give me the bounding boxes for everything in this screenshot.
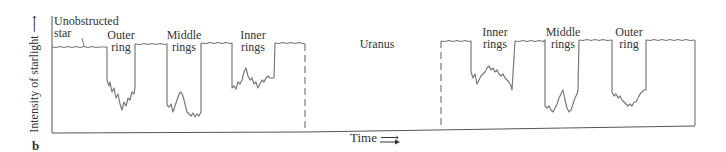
label-inner-rings-left: Inner rings <box>236 29 270 53</box>
label-inner-rings-left-text: Inner rings <box>240 28 265 54</box>
label-middle-rings-left: Middle rings <box>164 29 204 53</box>
label-middle-rings-right-text: Middle rings <box>546 25 581 51</box>
label-inner-rings-right: Inner rings <box>478 26 512 50</box>
label-middle-rings-left-text: Middle rings <box>167 28 202 54</box>
label-uranus-text: Uranus <box>360 37 395 51</box>
annotation-pointer <box>82 38 84 46</box>
label-outer-ring-left: Outer ring <box>104 29 138 53</box>
x-axis-label: Time ⟶ <box>350 130 399 146</box>
x-axis-label-text: Time ⟶ <box>350 130 399 145</box>
label-outer-ring-right: Outer ring <box>612 26 646 50</box>
label-inner-rings-right-text: Inner rings <box>482 25 507 51</box>
label-outer-ring-left-text: Outer ring <box>107 28 134 54</box>
label-uranus: Uranus <box>352 38 402 50</box>
panel-label: b <box>32 138 39 152</box>
y-axis-label: Intensity of starlight ⟶ <box>27 15 42 133</box>
label-outer-ring-right-text: Outer ring <box>615 25 642 51</box>
label-middle-rings-right: Middle rings <box>543 26 583 50</box>
